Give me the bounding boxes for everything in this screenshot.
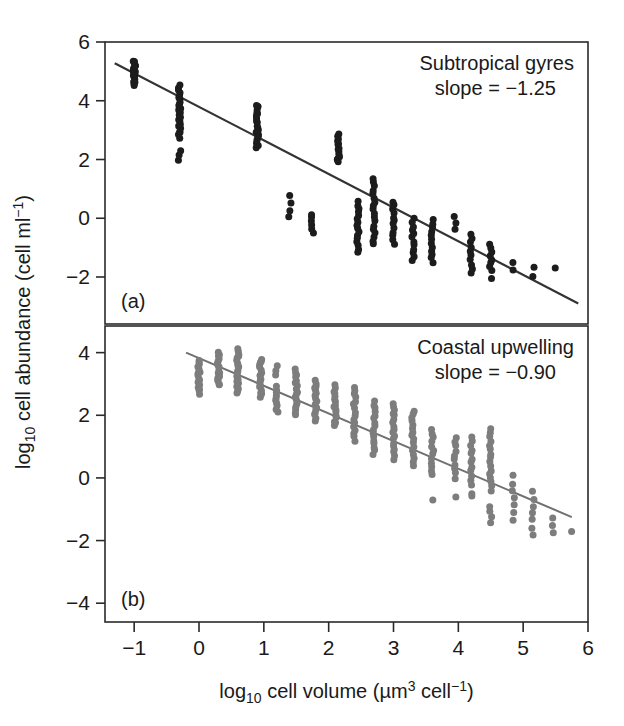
data-point	[452, 493, 459, 500]
data-point	[510, 517, 517, 524]
x-axis-tick-label: −1	[122, 636, 146, 659]
panel-title-annotation: Coastal upwelling	[417, 336, 574, 358]
data-point	[452, 475, 459, 482]
x-axis-tick-label: 2	[323, 636, 335, 659]
y-axis-tick-label: 4	[78, 89, 90, 112]
data-point	[552, 264, 559, 271]
data-point	[389, 199, 396, 206]
y-axis-tick-label: −2	[66, 529, 90, 552]
data-point	[428, 426, 435, 433]
data-point	[285, 213, 292, 220]
data-point	[258, 356, 265, 363]
data-point	[215, 349, 222, 356]
data-point	[355, 198, 362, 205]
data-point	[530, 496, 537, 503]
data-point	[511, 494, 518, 501]
data-point	[196, 357, 203, 364]
data-point	[529, 273, 536, 280]
data-point	[335, 131, 342, 138]
data-point	[370, 175, 377, 182]
data-point	[390, 400, 397, 407]
data-point	[469, 456, 476, 463]
panel-letter-label: (b)	[121, 588, 145, 610]
data-point	[452, 220, 459, 227]
panel-b: 420−2−4−10123456Coastal upwellingslope =…	[66, 326, 594, 659]
data-point	[451, 213, 458, 220]
data-point	[486, 241, 493, 248]
y-axis-tick-label: −4	[66, 591, 90, 614]
data-point	[351, 384, 358, 391]
data-point	[253, 102, 260, 109]
data-point	[274, 362, 281, 369]
data-point	[487, 425, 494, 432]
panel-a: 6420−2Subtropical gyresslope = −1.25(a)	[66, 30, 588, 324]
data-point	[510, 509, 517, 516]
data-point	[430, 216, 437, 223]
data-point	[509, 481, 516, 488]
panel-title-annotation: Subtropical gyres	[419, 52, 574, 74]
data-point	[234, 345, 241, 352]
data-point	[468, 490, 475, 497]
data-point	[331, 381, 338, 388]
y-axis-tick-label: 2	[78, 403, 90, 426]
y-axis-tick-label: −2	[66, 265, 90, 288]
regression-fit-line	[115, 63, 579, 303]
x-axis-tick-label: 4	[452, 636, 464, 659]
panel-slope-annotation: slope = −0.90	[435, 361, 556, 383]
data-point	[292, 366, 299, 373]
data-point	[509, 259, 516, 266]
y-axis-tick-label: 0	[78, 206, 90, 229]
panel-slope-annotation: slope = −1.25	[435, 77, 556, 99]
y-axis-tick-label: 0	[78, 466, 90, 489]
y-axis-tick-label: 4	[78, 341, 90, 364]
x-axis-title: log10 cell volume (µm3 cell−1)	[219, 678, 473, 706]
data-point	[411, 408, 418, 415]
data-point	[286, 207, 293, 214]
panel-letter-label: (a)	[121, 290, 145, 312]
data-point	[488, 275, 495, 282]
x-axis-tick-label: 3	[388, 636, 400, 659]
data-point	[529, 488, 536, 495]
data-point	[468, 434, 475, 441]
data-point	[176, 82, 183, 89]
data-point	[511, 501, 518, 508]
data-point	[510, 267, 517, 274]
data-point	[528, 525, 535, 532]
data-point	[452, 226, 459, 233]
data-point	[467, 231, 474, 238]
data-point	[510, 472, 517, 479]
scatter-figure: 6420−2Subtropical gyresslope = −1.25(a) …	[0, 0, 624, 726]
x-axis-tick-label: 0	[193, 636, 205, 659]
data-point	[453, 448, 460, 455]
data-point	[177, 147, 184, 154]
y-axis-title: log10 cell abundance (cell ml−1)	[10, 195, 38, 469]
plot-canvas: 6420−2Subtropical gyresslope = −1.25(a) …	[0, 0, 624, 726]
data-point	[308, 211, 315, 218]
data-point	[509, 487, 516, 494]
data-point	[429, 497, 436, 504]
y-axis-tick-label: 6	[78, 30, 90, 53]
data-point	[530, 531, 537, 538]
data-point	[131, 58, 138, 65]
data-point	[453, 434, 460, 441]
x-axis-tick-label: 5	[517, 636, 529, 659]
x-axis-tick-label: 6	[582, 636, 594, 659]
data-point	[549, 522, 556, 529]
x-axis-tick-label: 1	[258, 636, 270, 659]
data-point	[312, 377, 319, 384]
data-point	[549, 514, 556, 521]
data-point	[411, 215, 418, 222]
data-point	[568, 528, 575, 535]
data-point	[486, 503, 493, 510]
data-point	[530, 503, 537, 510]
data-point	[451, 462, 458, 469]
data-point	[286, 192, 293, 199]
data-point	[550, 529, 557, 536]
data-point	[273, 383, 280, 390]
data-point	[287, 200, 294, 207]
y-axis-tick-label: 2	[78, 148, 90, 171]
data-point	[529, 516, 536, 523]
data-point	[371, 397, 378, 404]
data-point	[487, 519, 494, 526]
data-point	[531, 264, 538, 271]
